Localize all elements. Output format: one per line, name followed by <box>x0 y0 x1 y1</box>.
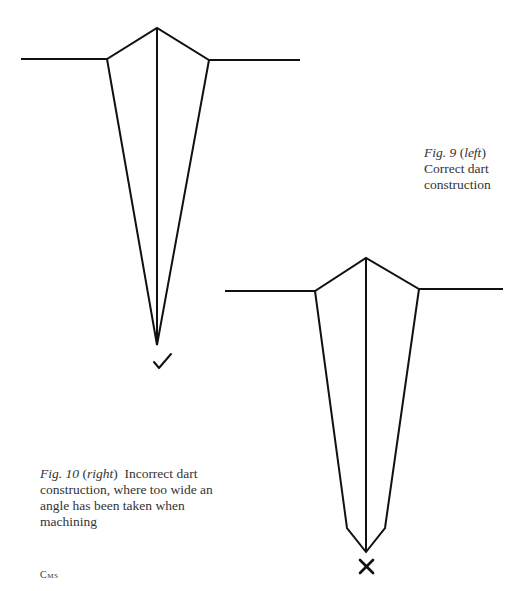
credit-label: Cms <box>40 569 58 580</box>
fig10-qualifier: right <box>87 466 113 481</box>
fig9-caption-text: Correct dart construction <box>424 161 491 192</box>
fig9-qualifier: left <box>464 145 481 160</box>
fig10-caption: Fig. 10 (right) Incorrect dart construct… <box>40 466 240 530</box>
cross-icon <box>360 560 373 573</box>
check-icon <box>154 354 171 368</box>
fig9-caption: Fig. 9 (left) Correct dart construction <box>424 145 522 193</box>
fig9-seam-line-left <box>21 28 300 60</box>
fig10-incorrect-dart <box>225 258 503 552</box>
fig9-label: Fig. 9 <box>424 145 456 160</box>
fig10-label: Fig. 10 <box>40 466 79 481</box>
fig10-seam-line <box>225 258 503 291</box>
fig9-correct-dart <box>21 28 300 345</box>
